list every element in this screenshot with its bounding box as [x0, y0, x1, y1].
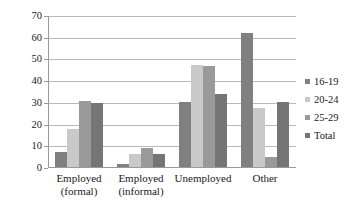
legend-item-label: Total: [314, 130, 335, 141]
bar: [191, 65, 203, 167]
legend-item: 25-29: [305, 108, 362, 126]
bar: [129, 154, 141, 167]
y-axis-tick-label: 0: [10, 163, 42, 173]
bar: [79, 101, 91, 167]
bar: [253, 108, 265, 167]
x-axis-category-label: Employed(informal): [110, 172, 172, 198]
bar: [117, 164, 129, 167]
legend-item-label: 20-24: [314, 94, 339, 105]
bar: [153, 154, 165, 167]
x-axis-line: [48, 167, 296, 168]
x-axis-category-label: Unemployed: [172, 172, 234, 198]
y-axis-tick-label: 60: [10, 33, 42, 43]
bar-group: [234, 16, 296, 167]
legend-item: 20-24: [305, 90, 362, 108]
legend-swatch-icon: [305, 97, 310, 102]
bar-chart: 706050403020100 Employed(formal)Employed…: [0, 0, 362, 219]
y-axis-tick-label: 50: [10, 54, 42, 64]
chart-legend: 16-1920-2425-29Total: [305, 72, 362, 144]
y-axis-tick-label: 30: [10, 98, 42, 108]
legend-item-label: 25-29: [314, 112, 339, 123]
legend-item: 16-19: [305, 72, 362, 90]
bar: [203, 66, 215, 167]
x-axis-category-label: Employed(formal): [48, 172, 110, 198]
legend-swatch-icon: [305, 115, 310, 120]
x-axis-labels: Employed(formal)Employed(informal)Unempl…: [48, 172, 296, 198]
bar: [91, 103, 103, 167]
legend-swatch-icon: [305, 79, 310, 84]
bar-groups: [48, 16, 296, 167]
bar-group: [110, 16, 172, 167]
y-axis-tick-label: 70: [10, 11, 42, 21]
bar: [265, 157, 277, 167]
bar: [241, 33, 253, 167]
bar: [55, 152, 67, 167]
bar: [67, 129, 79, 167]
legend-swatch-icon: [305, 133, 310, 138]
legend-item: Total: [305, 126, 362, 144]
bar-group: [172, 16, 234, 167]
legend-item-label: 16-19: [314, 76, 339, 87]
bar: [179, 102, 191, 167]
y-axis-tick-label: 20: [10, 120, 42, 130]
y-axis-tick-label: 10: [10, 141, 42, 151]
bar-group: [48, 16, 110, 167]
bar: [215, 94, 227, 167]
y-axis-tick-label: 40: [10, 76, 42, 86]
bar: [141, 148, 153, 167]
y-axis-tick-mark: [44, 168, 48, 169]
plot-area: [48, 16, 296, 168]
bar: [277, 102, 289, 167]
x-axis-category-label: Other: [234, 172, 296, 198]
